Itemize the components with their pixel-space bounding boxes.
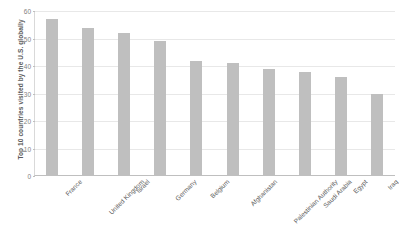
bar-slot bbox=[106, 11, 142, 176]
bar-slot bbox=[323, 11, 359, 176]
y-tick-label: 10 bbox=[24, 145, 31, 152]
bar-slot bbox=[215, 11, 251, 176]
y-tick-label: 30 bbox=[24, 90, 31, 97]
bar[interactable] bbox=[190, 61, 202, 177]
x-tick-label: Iraq bbox=[386, 178, 399, 191]
bars-layer bbox=[34, 11, 395, 176]
y-tick-mark bbox=[33, 176, 35, 177]
bar-slot bbox=[251, 11, 287, 176]
y-tick-label: 20 bbox=[24, 118, 31, 125]
bar[interactable] bbox=[263, 69, 275, 176]
bar[interactable] bbox=[227, 63, 239, 176]
bar[interactable] bbox=[299, 72, 311, 177]
x-tick-label: Egypt bbox=[352, 178, 369, 195]
bar-slot bbox=[287, 11, 323, 176]
bar-slot bbox=[70, 11, 106, 176]
x-tick-label: Belgium bbox=[209, 178, 231, 200]
bar[interactable] bbox=[118, 33, 130, 176]
x-tick-label: Germany bbox=[174, 178, 198, 202]
bar-slot bbox=[142, 11, 178, 176]
bar-slot bbox=[178, 11, 214, 176]
x-tick-label: France bbox=[64, 178, 83, 197]
bar-slot bbox=[34, 11, 70, 176]
y-tick-label: 40 bbox=[24, 63, 31, 70]
bar[interactable] bbox=[82, 28, 94, 177]
y-axis-title: Top 10 countries visited by the U.S. glo… bbox=[17, 0, 24, 180]
bar[interactable] bbox=[46, 19, 58, 176]
bar-chart: Top 10 countries visited by the U.S. glo… bbox=[0, 0, 399, 240]
y-tick-label: 60 bbox=[24, 8, 31, 15]
x-axis-labels: FranceUnited KingdomIsraelGermanyBelgium… bbox=[34, 178, 395, 240]
y-tick-label: 0 bbox=[27, 173, 31, 180]
x-tick-label: Afghanistan bbox=[249, 178, 278, 207]
bar-slot bbox=[359, 11, 395, 176]
bar[interactable] bbox=[335, 77, 347, 176]
bar[interactable] bbox=[371, 94, 383, 177]
bar[interactable] bbox=[154, 41, 166, 176]
y-tick-label: 50 bbox=[24, 35, 31, 42]
